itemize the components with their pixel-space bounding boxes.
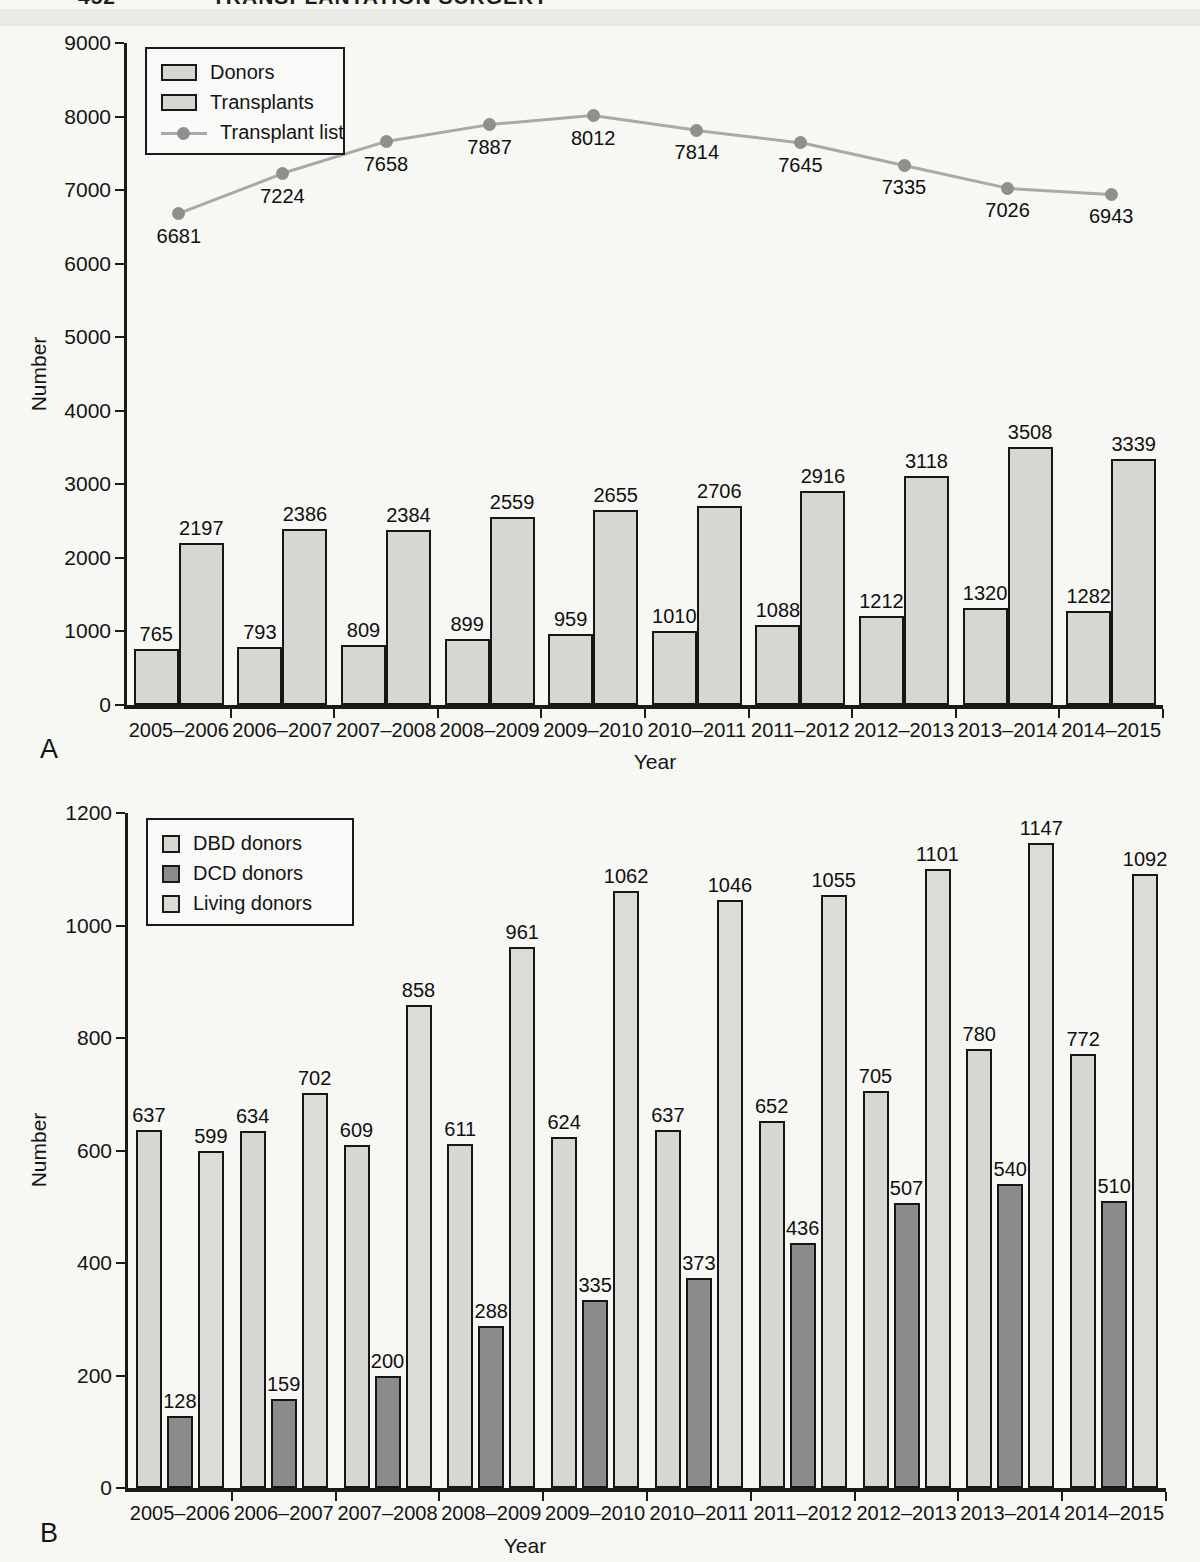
living-donors-value-label: 1046 [684, 874, 776, 896]
dbd-donors-value-label: 634 [207, 1105, 299, 1127]
y-tick-label: 200 [38, 1365, 112, 1387]
dbd-donors-bar [136, 1130, 162, 1488]
living-donors-bar [821, 895, 847, 1488]
dcd-donors-bar [894, 1203, 920, 1488]
x-tick-mark [646, 1492, 648, 1501]
chart-b-panel-label: B [40, 1518, 58, 1549]
dcd-donors-bar [582, 1300, 608, 1488]
y-tick-label: 1200 [38, 802, 112, 824]
x-tick-mark [957, 1492, 959, 1501]
living-donors-value-label: 1055 [788, 869, 880, 891]
dbd-donors-bar [863, 1091, 889, 1488]
living-donors-bar [509, 947, 535, 1488]
dcd-donors-bar [167, 1416, 193, 1488]
y-tick-mark [116, 1375, 125, 1377]
legend: DBD donorsDCD donorsLiving donors [146, 818, 354, 926]
scanned-textbook-page: 452TRANSPLANTATION SURGERY 0100020003000… [0, 0, 1200, 1562]
living-donors-bar [925, 869, 951, 1488]
living-donors-value-label: 858 [373, 979, 465, 1001]
dcd-donors-bar [478, 1326, 504, 1488]
x-tick-mark [438, 1492, 440, 1501]
dbd-donors-bar [759, 1121, 785, 1488]
category-label: 2014–2015 [1049, 1502, 1179, 1524]
dcd-donors-bar [686, 1278, 712, 1488]
legend-label: DCD donors [193, 862, 303, 885]
chart-a-panel-label: A [40, 734, 58, 765]
x-tick-mark [1165, 1492, 1167, 1501]
x-tick-mark [335, 1492, 337, 1501]
living-donors-value-label: 1101 [892, 843, 984, 865]
living-donors-value-label: 1062 [580, 865, 672, 887]
y-tick-mark [116, 1150, 125, 1152]
dbd-donors-bar [344, 1145, 370, 1488]
x-tick-mark [542, 1492, 544, 1501]
legend-item-living-donors: Living donors [162, 889, 312, 918]
legend-label: DBD donors [193, 832, 302, 855]
chart-a-y-axis-title: Number [27, 304, 51, 444]
dbd-donors-bar [551, 1137, 577, 1488]
y-tick-mark [116, 925, 125, 927]
dcd-donors-bar [375, 1376, 401, 1489]
y-axis [125, 813, 128, 1490]
y-tick-label: 400 [38, 1252, 112, 1274]
chart-b-y-axis-title: Number [27, 1080, 51, 1220]
y-tick-label: 800 [38, 1027, 112, 1049]
living-donors-bar [406, 1005, 432, 1488]
y-tick-mark [116, 1262, 125, 1264]
living-donors-value-label: 599 [165, 1125, 257, 1147]
y-tick-mark [116, 1037, 125, 1039]
x-tick-mark [854, 1492, 856, 1501]
living-donors-value-label: 1147 [995, 817, 1087, 839]
legend-item-dbd-donors: DBD donors [162, 829, 302, 858]
living-donors-bar [198, 1151, 224, 1488]
chart-b-x-axis-title: Year [470, 1534, 580, 1558]
chart-a-x-axis-title: Year [600, 750, 710, 774]
x-tick-mark [231, 1492, 233, 1501]
dbd-donors-swatch-icon [162, 835, 180, 853]
dcd-donors-swatch-icon [162, 865, 180, 883]
x-tick-mark [750, 1492, 752, 1501]
living-donors-bar [717, 900, 743, 1488]
dbd-donors-value-label: 637 [103, 1104, 195, 1126]
dbd-donors-bar [655, 1130, 681, 1488]
dbd-donors-bar [966, 1049, 992, 1488]
living-donors-value-label: 702 [269, 1067, 361, 1089]
living-donors-bar [613, 891, 639, 1488]
dbd-donors-bar [1070, 1054, 1096, 1488]
dcd-donors-bar [997, 1184, 1023, 1488]
y-tick-mark [116, 812, 125, 814]
y-tick-label: 0 [38, 1477, 112, 1499]
living-donors-bar [1132, 874, 1158, 1488]
y-tick-mark [116, 1487, 125, 1489]
living-donors-value-label: 961 [476, 921, 568, 943]
living-donors-bar [1028, 843, 1054, 1488]
dcd-donors-bar [271, 1399, 297, 1488]
living-donors-bar [302, 1093, 328, 1488]
living-donors-swatch-icon [162, 895, 180, 913]
dcd-donors-bar [1101, 1201, 1127, 1488]
dcd-donors-bar [790, 1243, 816, 1488]
x-tick-mark [1061, 1492, 1063, 1501]
living-donors-value-label: 1092 [1099, 848, 1191, 870]
chart-b-panel: 0200400600800100012002005–20062006–20072… [0, 0, 1200, 1562]
dbd-donors-bar [240, 1131, 266, 1488]
legend-item-dcd-donors: DCD donors [162, 859, 303, 888]
legend-label: Living donors [193, 892, 312, 915]
y-tick-label: 1000 [38, 915, 112, 937]
